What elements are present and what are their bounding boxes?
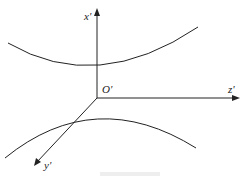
y-axis <box>37 98 97 162</box>
x-arrow-icon <box>94 8 100 16</box>
z-axis-label: z' <box>228 84 235 95</box>
diagram: x' z' y' O' <box>0 0 246 182</box>
z-arrow-icon <box>232 95 240 101</box>
origin-label: O' <box>102 84 112 95</box>
x-axis-label: x' <box>84 11 91 22</box>
y-axis-label: y' <box>44 160 51 171</box>
axes-and-curves <box>0 0 246 182</box>
caption-faint <box>100 172 160 176</box>
lower-curve <box>5 119 196 158</box>
upper-curve <box>8 27 198 66</box>
